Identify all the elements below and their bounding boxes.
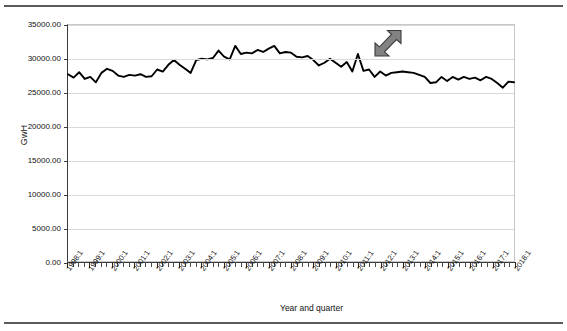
- x-axis-tick-labels: 1998:11999:12000:12001:12002:12003:12004…: [0, 268, 567, 308]
- gridline: [68, 59, 514, 60]
- x-tick-mark: [437, 262, 438, 267]
- series-polyline: [68, 46, 514, 88]
- y-tick-label: 20000.00: [0, 122, 61, 131]
- x-tick-mark: [213, 262, 214, 267]
- x-tick-mark: [353, 262, 354, 267]
- x-tick-mark: [375, 262, 376, 267]
- x-tick-mark: [285, 262, 286, 267]
- x-tick-mark: [330, 262, 331, 267]
- data-series-line: [68, 25, 514, 261]
- x-tick-mark: [129, 262, 130, 267]
- y-tick-label: 10000.00: [0, 190, 61, 199]
- x-axis-title: Year and quarter: [280, 303, 343, 313]
- x-tick-mark: [84, 262, 85, 267]
- gridline: [68, 93, 514, 94]
- y-axis-title: GwH: [19, 105, 29, 165]
- y-tick-label: 35000.00: [0, 20, 61, 29]
- x-tick-label: 2018:1: [513, 249, 533, 273]
- x-tick-mark: [106, 262, 107, 267]
- gridline: [68, 195, 514, 196]
- y-tick-mark: [64, 127, 68, 128]
- y-tick-label: 5000.00: [0, 224, 61, 233]
- bottom-divider: [4, 322, 563, 324]
- gridline: [68, 127, 514, 128]
- arrow-annotation-icon: [374, 29, 404, 57]
- x-tick-mark: [196, 262, 197, 267]
- gridline: [68, 25, 514, 26]
- x-tick-mark: [151, 262, 152, 267]
- x-tick-mark: [487, 262, 488, 267]
- y-tick-mark: [64, 25, 68, 26]
- y-tick-mark: [64, 229, 68, 230]
- y-tick-label: 30000.00: [0, 54, 61, 63]
- y-tick-label: 15000.00: [0, 156, 61, 165]
- x-tick-mark: [173, 262, 174, 267]
- x-tick-mark: [145, 262, 146, 267]
- x-tick-mark: [442, 262, 443, 267]
- x-tick-mark: [481, 262, 482, 267]
- y-tick-label: 25000.00: [0, 88, 61, 97]
- y-tick-mark: [64, 161, 68, 162]
- x-tick-mark: [420, 262, 421, 267]
- x-tick-mark: [241, 262, 242, 267]
- x-tick-mark: [257, 262, 258, 267]
- gridline: [68, 229, 514, 230]
- plot-area: [67, 24, 515, 262]
- x-tick-mark: [101, 262, 102, 267]
- x-tick-mark: [308, 262, 309, 267]
- x-tick-mark: [263, 262, 264, 267]
- y-tick-mark: [64, 93, 68, 94]
- x-tick-mark: [509, 262, 510, 267]
- x-tick-mark: [465, 262, 466, 267]
- y-tick-mark: [64, 59, 68, 60]
- x-tick-mark: [325, 262, 326, 267]
- x-tick-mark: [397, 262, 398, 267]
- chart-figure: GwH 35000.0030000.0025000.0020000.001500…: [0, 0, 567, 331]
- y-tick-label: 0.00: [0, 258, 61, 267]
- x-tick-mark: [369, 262, 370, 267]
- y-tick-mark: [64, 195, 68, 196]
- top-divider: [4, 5, 563, 7]
- x-tick-mark: [218, 262, 219, 267]
- gridline: [68, 161, 514, 162]
